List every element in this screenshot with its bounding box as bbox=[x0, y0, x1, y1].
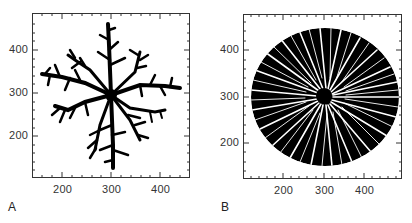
panel-b-label: B bbox=[221, 200, 229, 214]
panel-b-ytick-400: 400 bbox=[220, 43, 239, 55]
panel-b-xtick-300: 300 bbox=[315, 184, 334, 196]
panel-b-xtick-400: 400 bbox=[355, 184, 374, 196]
panel-b-xtick-200: 200 bbox=[274, 184, 293, 196]
panel-b: 200 300 400 400 300 200 B bbox=[0, 0, 412, 223]
panel-b-ytick-200: 200 bbox=[220, 136, 239, 148]
panel-b-ytick-300: 300 bbox=[220, 90, 239, 102]
panel-b-plot bbox=[0, 0, 412, 223]
panel-b-disk bbox=[251, 28, 399, 166]
